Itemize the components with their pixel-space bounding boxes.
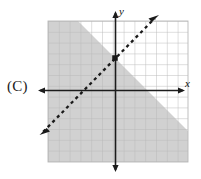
- coordinate-plane: [0, 0, 201, 179]
- y-axis-up-arrowhead: [112, 11, 118, 18]
- grid-lines: [48, 21, 188, 162]
- x-axis-label: x: [185, 78, 190, 89]
- y-axis-label: y: [119, 6, 124, 17]
- y-axis-down-arrowhead: [112, 165, 118, 172]
- choice-label: (C): [7, 79, 28, 94]
- x-axis-left-arrowhead: [38, 87, 45, 93]
- y-intercept-point: [112, 55, 118, 61]
- graph-figure: (C) y x: [0, 0, 201, 179]
